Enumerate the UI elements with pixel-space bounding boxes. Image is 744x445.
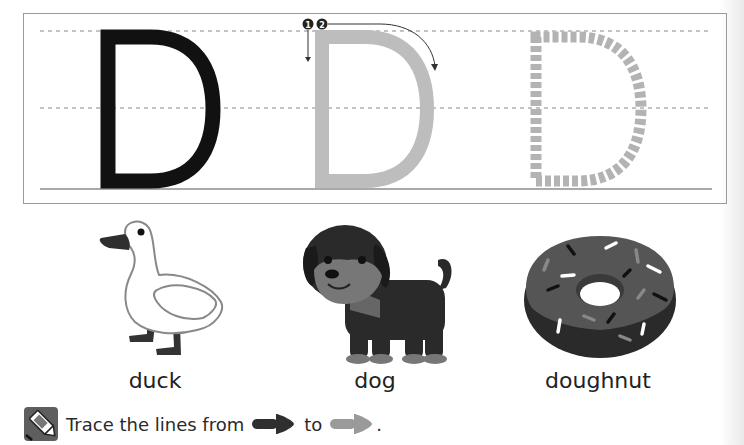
dog-picture (290, 218, 460, 368)
stroke-order-1-marker: 1 (303, 19, 314, 63)
solid-letter-d (108, 37, 213, 181)
instruction-to-text: to (304, 414, 322, 435)
end-arrow-icon (330, 413, 374, 435)
instruction-bar: Trace the lines from to . (24, 408, 382, 440)
svg-text:2: 2 (319, 21, 325, 30)
start-arrow-icon (252, 413, 296, 435)
tracing-area: 1 2 (0, 0, 744, 210)
instruction-text: Trace the lines from (66, 414, 244, 435)
instruction-period: . (376, 414, 382, 435)
duck-label: duck (65, 368, 245, 393)
duck-picture (85, 210, 245, 365)
doughnut-label: doughnut (508, 368, 688, 393)
svg-text:1: 1 (305, 21, 311, 30)
duck-icon (85, 210, 245, 365)
trace-letter-d[interactable] (322, 37, 427, 181)
dog-label: dog (285, 368, 465, 393)
dog-icon (290, 218, 460, 368)
doughnut-icon (520, 228, 680, 363)
doughnut-picture (520, 228, 680, 363)
dotted-letter-d[interactable] (536, 37, 641, 181)
crayon-icon (24, 407, 58, 441)
